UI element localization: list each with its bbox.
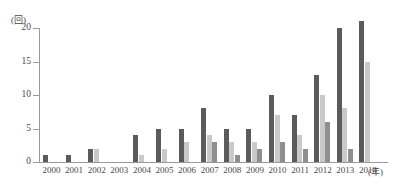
y-axis-tick [33,162,39,163]
x-axis-unit-label: (年) [368,165,383,178]
plot-area [39,28,386,162]
bar [201,108,206,162]
bar [207,135,212,162]
x-axis-tick-label: 2009 [243,165,266,175]
bar-group [133,28,150,162]
y-axis-tick-label: 0 [0,156,31,166]
bar-group [224,28,241,162]
bar [325,122,330,162]
bar [257,149,262,162]
bar [342,108,347,162]
bar [292,115,297,162]
y-axis-tick-label: 5 [0,123,31,133]
y-axis-tick-label: 20 [0,22,31,32]
bar [229,142,234,162]
bar-group [269,28,286,162]
bar-group [111,28,128,162]
x-axis-tick-label: 2002 [85,165,108,175]
bar-group [179,28,196,162]
bar [337,28,342,162]
bar-group [43,28,60,162]
x-axis-tick-label: 2011 [289,165,312,175]
bar-group [88,28,105,162]
bar [359,21,364,162]
bar [348,149,353,162]
x-axis-tick-label: 2001 [63,165,86,175]
bar [320,95,325,162]
bar [246,129,251,163]
bar [94,149,99,162]
bar [184,142,189,162]
bar [179,129,184,163]
x-axis-tick-label: 2013 [334,165,357,175]
bar [252,142,257,162]
bar-group [156,28,173,162]
bar-group [359,28,376,162]
bar [303,149,308,162]
bar [275,115,280,162]
bar [235,155,240,162]
bar [297,135,302,162]
bar-group [314,28,331,162]
x-axis-line [39,162,388,163]
x-axis-tick-label: 2012 [311,165,334,175]
bar [66,155,71,162]
bar-group [292,28,309,162]
x-axis-tick-label: 2003 [108,165,131,175]
x-axis-tick-label: 2005 [153,165,176,175]
x-axis-tick-label: 2000 [40,165,63,175]
bar [133,135,138,162]
bar [162,149,167,162]
x-axis-tick-label: 2004 [130,165,153,175]
bar [88,149,93,162]
y-axis-tick-label: 15 [0,56,31,66]
x-axis-tick-label: 2007 [198,165,221,175]
bar-group [201,28,218,162]
bar [43,155,48,162]
x-axis-tick-label: 2006 [176,165,199,175]
x-axis-tick-label: 2008 [221,165,244,175]
bar [139,155,144,162]
bar-group [66,28,83,162]
bar [365,62,370,163]
bar-group [337,28,354,162]
x-axis-tick-label: 2010 [266,165,289,175]
bar [280,142,285,162]
bar [212,142,217,162]
bar [269,95,274,162]
bar [224,129,229,163]
y-axis-tick-label: 10 [0,89,31,99]
bar-group [246,28,263,162]
bar [156,129,161,163]
bar [314,75,319,162]
bar-chart: (回) 05101520 200020012002200320042005200… [0,0,400,187]
